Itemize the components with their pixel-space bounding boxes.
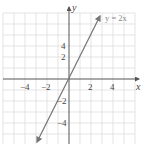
y-tick-2: 2 — [61, 52, 66, 62]
y-tick-neg2: −2 — [57, 96, 67, 106]
x-tick-neg4: −4 — [20, 82, 30, 92]
y-axis-label: y — [71, 2, 77, 13]
x-tick-2: 2 — [88, 82, 93, 92]
coordinate-plane: y x y = 2x −4 −2 2 4 4 2 −2 −4 — [0, 0, 144, 144]
equation-label: y = 2x — [105, 13, 128, 23]
y-tick-neg4: −4 — [57, 118, 67, 128]
x-tick-neg2: −2 — [41, 82, 51, 92]
x-tick-4: 4 — [110, 82, 115, 92]
y-tick-4: 4 — [61, 41, 66, 51]
x-axis-label: x — [135, 81, 141, 92]
